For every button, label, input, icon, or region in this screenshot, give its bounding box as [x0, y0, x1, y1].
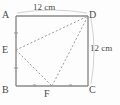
- dashed-segment-EF: [16, 50, 52, 86]
- tick-mark-FC: [69, 85, 72, 87]
- dimension-label-top: 12 cm: [33, 3, 55, 12]
- vertex-label-A: A: [2, 10, 9, 20]
- tick-mark-EB: [15, 67, 18, 69]
- vertex-label-C: C: [89, 85, 96, 95]
- tick-mark-BF: [33, 85, 36, 87]
- vertex-label-B: B: [2, 85, 9, 95]
- dimension-label-right: 12 cm: [90, 44, 112, 53]
- tick-mark-AE: [15, 32, 18, 34]
- vertex-label-D: D: [89, 10, 96, 20]
- geometry-figure: A D E B F C 12 cm 12 cm: [0, 0, 120, 105]
- dashed-segment-FD: [52, 16, 88, 86]
- dashed-segment-ED: [16, 16, 88, 50]
- vertex-label-E: E: [2, 45, 8, 55]
- vertex-label-F: F: [44, 89, 50, 99]
